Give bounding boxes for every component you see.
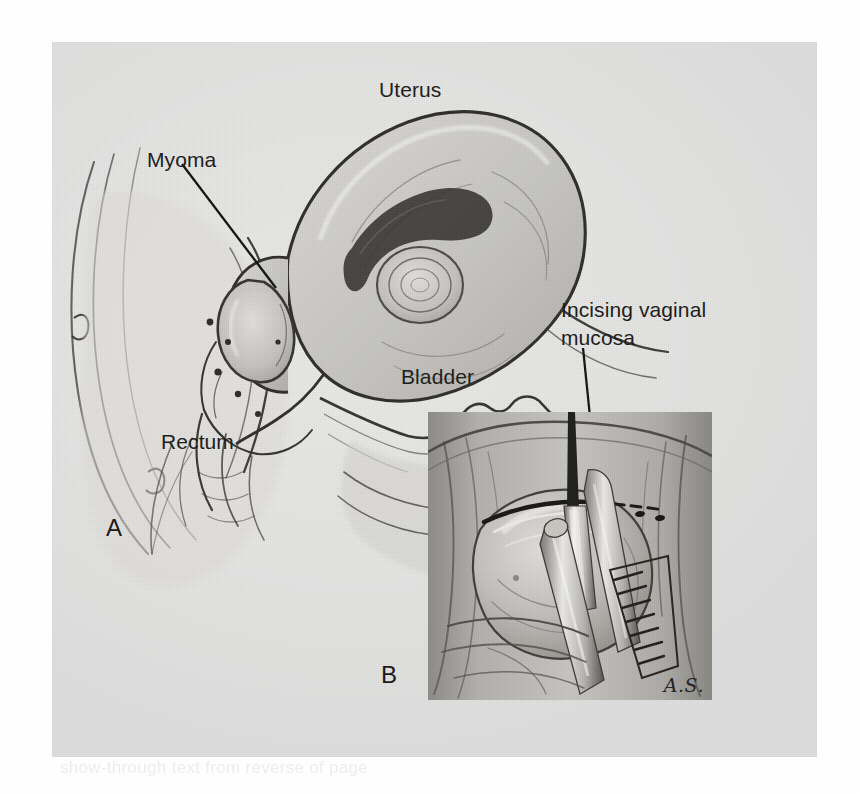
panel-b-illustration (428, 412, 712, 700)
label-incising-vaginal: Incising vaginal (561, 297, 706, 322)
panel-label-b: B (381, 662, 397, 688)
label-myoma: Myoma (147, 147, 216, 172)
page-showthrough-text: show-through text from reverse of page (60, 760, 800, 790)
figure-plate: A.S. Uterus Myoma Bladder Rectum Incisin… (52, 42, 817, 757)
label-uterus: Uterus (379, 77, 441, 102)
panel-label-a: A (106, 515, 122, 541)
label-mucosa: mucosa (561, 325, 635, 350)
page-background: A.S. Uterus Myoma Bladder Rectum Incisin… (0, 0, 860, 793)
label-bladder: Bladder (401, 364, 474, 389)
panel-b-inset-image: A.S. (428, 412, 712, 700)
artist-signature: A.S. (664, 674, 704, 696)
label-rectum: Rectum (161, 429, 234, 454)
